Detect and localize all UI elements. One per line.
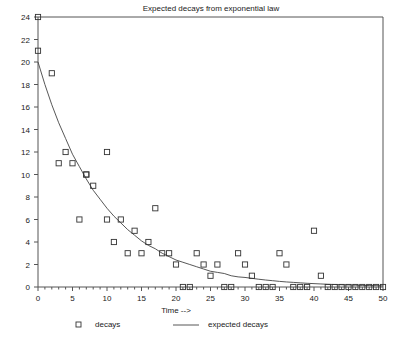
y-tick-label: 6: [26, 216, 31, 225]
x-tick-label: 0: [36, 294, 41, 303]
y-tick-label: 20: [21, 58, 30, 67]
x-tick-label: 5: [70, 294, 75, 303]
data-point-marker: [153, 206, 158, 211]
x-tick-label: 15: [137, 294, 146, 303]
y-tick-label: 10: [21, 171, 30, 180]
data-point-marker: [167, 251, 172, 256]
y-tick-label: 0: [26, 283, 31, 292]
data-point-marker: [63, 149, 68, 154]
x-axis-label: Time -->: [161, 306, 191, 315]
x-tick-label: 35: [275, 294, 284, 303]
legend-marker-decays: [76, 322, 81, 327]
data-point-marker: [111, 239, 116, 244]
x-tick-label: 25: [206, 294, 215, 303]
legend-label-expected-decays: expected decays: [208, 320, 268, 329]
data-point-marker: [242, 262, 247, 267]
y-tick-label: 24: [21, 13, 30, 22]
data-point-marker: [215, 262, 220, 267]
data-point-marker: [284, 262, 289, 267]
data-point-marker: [125, 251, 130, 256]
y-tick-label: 22: [21, 36, 30, 45]
x-tick-label: 40: [310, 294, 319, 303]
data-point-marker: [132, 228, 137, 233]
data-point-marker: [277, 251, 282, 256]
x-tick-label: 30: [241, 294, 250, 303]
data-point-marker: [249, 273, 254, 278]
data-point-marker: [318, 273, 323, 278]
chart-title: Expected decays from exponential law: [143, 4, 280, 13]
y-axis-ticks: 024681012141618202224: [21, 13, 38, 292]
y-tick-label: 4: [26, 238, 31, 247]
y-tick-label: 8: [26, 193, 31, 202]
x-tick-label: 50: [379, 294, 388, 303]
x-tick-label: 45: [344, 294, 353, 303]
legend-label-decays: decays: [95, 320, 120, 329]
y-tick-label: 12: [21, 148, 30, 157]
x-tick-label: 20: [172, 294, 181, 303]
data-point-marker: [194, 251, 199, 256]
data-point-marker: [201, 262, 206, 267]
y-tick-label: 2: [26, 261, 31, 270]
data-point-marker: [56, 161, 61, 166]
data-point-marker: [236, 251, 241, 256]
y-tick-label: 18: [21, 81, 30, 90]
expected-decays-curve: [38, 62, 383, 286]
data-point-marker: [77, 217, 82, 222]
data-point-marker: [311, 228, 316, 233]
decays-data-points: [35, 14, 385, 289]
y-tick-label: 16: [21, 103, 30, 112]
chart-canvas: Expected decays from exponential law 024…: [0, 0, 400, 339]
decay-chart: Expected decays from exponential law 024…: [0, 0, 400, 339]
data-point-marker: [49, 71, 54, 76]
data-point-marker: [104, 149, 109, 154]
data-point-marker: [104, 217, 109, 222]
y-tick-label: 14: [21, 126, 30, 135]
data-point-marker: [139, 251, 144, 256]
data-point-marker: [173, 262, 178, 267]
x-tick-label: 10: [103, 294, 112, 303]
data-point-marker: [70, 161, 75, 166]
data-point-marker: [208, 273, 213, 278]
